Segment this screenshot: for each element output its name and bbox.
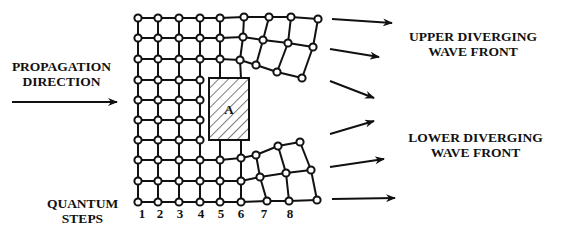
- lattice-node: [252, 61, 259, 68]
- label-line: LOWER DIVERGING: [398, 130, 553, 145]
- lattice-node: [265, 13, 272, 20]
- step-number: 6: [238, 206, 245, 221]
- step-number: 3: [177, 206, 184, 221]
- lattice-node: [274, 142, 281, 149]
- lattice-node: [216, 156, 223, 163]
- lattice-node: [196, 55, 203, 62]
- lattice-node: [154, 177, 161, 184]
- lattice-node: [154, 116, 161, 123]
- lattice-node: [287, 13, 294, 20]
- lattice-node: [175, 177, 182, 184]
- lattice-node: [175, 96, 182, 103]
- lattice-node: [196, 34, 203, 41]
- lattice-node: [134, 198, 141, 205]
- step-number: 2: [157, 206, 164, 221]
- lattice-node: [252, 151, 259, 158]
- lattice-node: [307, 166, 314, 173]
- lattice-node: [134, 96, 141, 103]
- lattice-node: [134, 34, 141, 41]
- step-number: 7: [261, 206, 268, 221]
- lattice-node: [134, 55, 141, 62]
- lattice-node: [154, 96, 161, 103]
- lattice-node: [282, 169, 289, 176]
- lattice-node: [285, 197, 292, 204]
- lattice-node: [175, 14, 182, 21]
- lattice-node: [259, 36, 266, 43]
- lattice-node: [154, 156, 161, 163]
- lattice-node: [263, 197, 270, 204]
- lattice-node: [175, 136, 182, 143]
- quantum-steps-label: QUANTUM STEPS: [40, 196, 125, 226]
- lattice-node: [175, 156, 182, 163]
- label-line: DIRECTION: [4, 74, 119, 89]
- lattice-node: [236, 56, 243, 63]
- lattice-node: [196, 198, 203, 205]
- lattice-node: [298, 74, 305, 81]
- lattice-node: [175, 34, 182, 41]
- lattice-node: [284, 39, 291, 46]
- lattice-node: [134, 14, 141, 21]
- lattice-node: [216, 14, 223, 21]
- lattice-node: [154, 136, 161, 143]
- step-number: 1: [139, 206, 146, 221]
- lattice-node: [196, 156, 203, 163]
- lattice-node: [154, 55, 161, 62]
- lattice-node: [256, 173, 263, 180]
- lattice-node: [240, 13, 247, 20]
- lattice-node: [154, 34, 161, 41]
- lattice-node: [216, 55, 223, 62]
- lattice-node: [134, 116, 141, 123]
- lattice-node: [134, 136, 141, 143]
- lattice-node: [314, 15, 321, 22]
- lattice-node: [239, 33, 246, 40]
- step-number: 8: [287, 206, 294, 221]
- step-number: 4: [198, 206, 205, 221]
- lattice-node: [154, 14, 161, 21]
- lattice-node: [134, 156, 141, 163]
- lattice-node: [196, 76, 203, 83]
- lattice-node: [175, 55, 182, 62]
- label-line: QUANTUM: [40, 196, 125, 211]
- lattice-node: [237, 198, 244, 205]
- lattice-node: [196, 177, 203, 184]
- step-number: 5: [218, 206, 225, 221]
- lattice-node: [237, 177, 244, 184]
- upper-arrows: [330, 19, 392, 98]
- obstacle-label: A: [222, 102, 236, 117]
- label-line: WAVE FRONT: [398, 44, 548, 59]
- label-line: WAVE FRONT: [398, 145, 553, 160]
- lattice-node: [273, 68, 280, 75]
- lattice-node: [134, 177, 141, 184]
- lattice-node: [216, 34, 223, 41]
- lower-arrows: [330, 121, 395, 199]
- lattice-node: [175, 116, 182, 123]
- lattice-node: [196, 116, 203, 123]
- propagation-direction-label: PROPAGATION DIRECTION: [4, 59, 119, 89]
- lattice-node: [134, 76, 141, 83]
- lattice-node: [196, 14, 203, 21]
- lattice-node: [196, 136, 203, 143]
- label-line: STEPS: [40, 211, 125, 226]
- lattice-node: [296, 138, 303, 145]
- lattice-node: [154, 76, 161, 83]
- lattice-node: [216, 198, 223, 205]
- lattice-node: [313, 196, 320, 203]
- upper-diverging-label: UPPER DIVERGING WAVE FRONT: [398, 29, 548, 59]
- label-line: UPPER DIVERGING: [398, 29, 548, 44]
- lattice-node: [196, 96, 203, 103]
- lattice-node: [216, 177, 223, 184]
- lattice-node: [309, 43, 316, 50]
- lattice-node: [175, 198, 182, 205]
- lattice-node: [154, 198, 161, 205]
- step-numbers: 12345678: [139, 206, 294, 221]
- lower-diverging-label: LOWER DIVERGING WAVE FRONT: [398, 130, 553, 160]
- lattice-node: [175, 76, 182, 83]
- label-line: PROPAGATION: [4, 59, 119, 74]
- lattice-node: [237, 154, 244, 161]
